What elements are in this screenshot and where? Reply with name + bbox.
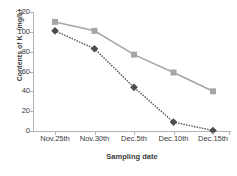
y-tickmark [30,72,33,73]
x-axis-tick-labels: Nov.25thNov.30thDec.5thDec.10thDec.15th [33,134,231,146]
y-tick-label: 40 [8,87,30,95]
series-layer [33,12,231,131]
data-point-marker [170,118,178,126]
y-tick-label: 80 [8,48,30,56]
chart-container: Contents of K（mg/L） 120100806040200 Nov.… [0,0,237,176]
data-point-marker [171,69,177,75]
plot-area [33,12,231,131]
y-tick-label: 60 [8,68,30,76]
data-point-marker [92,28,98,34]
y-tick-label: 120 [8,8,30,16]
data-point-marker [51,27,59,35]
y-tickmark [30,131,33,132]
data-point-marker [210,88,216,94]
x-axis-title: Sampling date [33,152,231,161]
x-axis-line [33,131,231,132]
y-tick-label: 20 [8,107,30,115]
y-axis-tick-labels: 120100806040200 [8,12,30,131]
data-point-marker [91,45,99,53]
data-point-marker [52,19,58,25]
y-tickmark [30,12,33,13]
data-point-marker [131,52,137,58]
y-tick-label: 100 [8,28,30,36]
y-tickmark [30,52,33,53]
y-tickmark [30,111,33,112]
x-tick-label: Dec.15th [184,134,237,144]
y-tickmark [30,32,33,33]
y-tickmark [30,91,33,92]
